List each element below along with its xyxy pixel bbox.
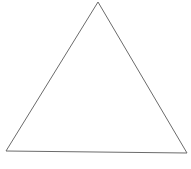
triangle-diagram <box>0 0 191 169</box>
diagram-canvas <box>0 0 191 169</box>
triangle-shape <box>6 2 187 153</box>
